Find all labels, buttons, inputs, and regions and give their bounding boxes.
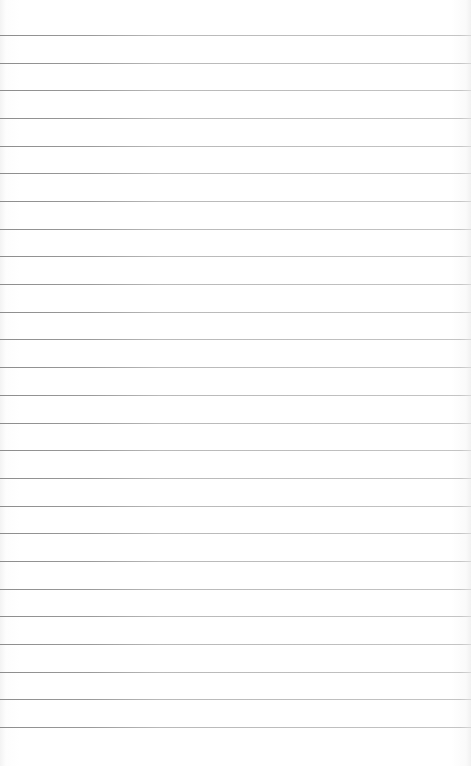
ruled-line	[0, 423, 471, 424]
ruled-line	[0, 35, 471, 36]
ruled-line	[0, 561, 471, 562]
ruled-line	[0, 727, 471, 728]
ruled-line	[0, 589, 471, 590]
ruled-line	[0, 173, 471, 174]
ruled-line	[0, 450, 471, 451]
ruled-line	[0, 699, 471, 700]
ruled-line	[0, 533, 471, 534]
ruled-line	[0, 63, 471, 64]
ruled-line	[0, 118, 471, 119]
ruled-line	[0, 395, 471, 396]
ruled-line	[0, 284, 471, 285]
ruled-line	[0, 478, 471, 479]
ruled-line	[0, 506, 471, 507]
ruled-paper-sheet	[0, 0, 471, 766]
ruled-line	[0, 312, 471, 313]
ruled-line	[0, 367, 471, 368]
ruled-line	[0, 201, 471, 202]
ruled-line	[0, 256, 471, 257]
ruled-line	[0, 672, 471, 673]
ruled-line	[0, 644, 471, 645]
ruled-line	[0, 90, 471, 91]
ruled-line	[0, 229, 471, 230]
ruled-line	[0, 339, 471, 340]
ruled-line	[0, 146, 471, 147]
ruled-line	[0, 616, 471, 617]
